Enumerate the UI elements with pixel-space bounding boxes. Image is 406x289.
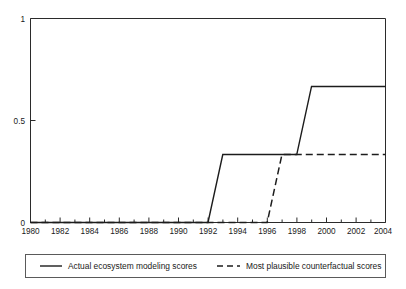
y-tick-label-1: 1 bbox=[20, 15, 25, 24]
x-tick-label-1990: 1990 bbox=[169, 227, 188, 236]
x-tick-label-1984: 1984 bbox=[81, 227, 100, 236]
x-tick-label-2000: 2000 bbox=[317, 227, 336, 236]
legend: Actual ecosystem modeling scores Most pl… bbox=[26, 255, 386, 278]
y-tick-label-0.5: 0.5 bbox=[14, 117, 26, 126]
x-tick-label-1986: 1986 bbox=[110, 227, 129, 236]
plot-border bbox=[31, 19, 386, 223]
x-tick-label-2002: 2002 bbox=[347, 227, 366, 236]
legend-label-actual: Actual ecosystem modeling scores bbox=[68, 261, 197, 271]
line-chart: 0 0.5 1 bbox=[0, 0, 406, 289]
x-tick-label-2004: 2004 bbox=[374, 227, 393, 236]
x-tick-label-1994: 1994 bbox=[229, 227, 248, 236]
legend-label-counterfactual: Most plausible counterfactual scores bbox=[246, 261, 381, 271]
x-tick-label-1980: 1980 bbox=[21, 227, 40, 236]
figure-container: 0 0.5 1 bbox=[0, 0, 406, 289]
y-axis: 0 0.5 1 bbox=[14, 15, 36, 228]
plot-frame bbox=[31, 19, 386, 223]
x-tick-label-1998: 1998 bbox=[288, 227, 307, 236]
series-line-most-plausible-counterfactual-scores bbox=[31, 155, 386, 223]
x-axis-labels: 1980 1982 1984 1986 1988 1990 1992 1994 … bbox=[21, 227, 392, 236]
x-tick-label-1996: 1996 bbox=[258, 227, 277, 236]
x-tick-label-1982: 1982 bbox=[51, 227, 70, 236]
series-group bbox=[31, 86, 386, 222]
x-tick-label-1992: 1992 bbox=[199, 227, 218, 236]
x-tick-label-1988: 1988 bbox=[140, 227, 159, 236]
